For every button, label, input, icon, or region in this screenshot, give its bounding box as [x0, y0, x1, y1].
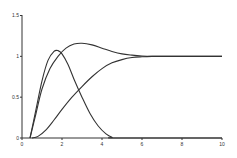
line-chart: 0246810 00.511.5 [0, 0, 237, 158]
y-tick-label: 1.5 [12, 12, 19, 18]
y-tick-label: 0.5 [12, 94, 19, 100]
x-tick-label: 6 [141, 141, 144, 147]
series-line-curve-1 [30, 50, 222, 138]
x-tick-label: 10 [219, 141, 225, 147]
x-tick-label: 8 [181, 141, 184, 147]
x-tick-label: 4 [101, 141, 104, 147]
series-line-curve-2 [30, 43, 222, 138]
y-tick-label: 0 [16, 135, 19, 141]
x-tick-label: 2 [61, 141, 64, 147]
series-line-curve-3 [32, 56, 222, 138]
x-tick-label: 0 [21, 141, 24, 147]
y-tick-label: 1 [16, 53, 19, 59]
